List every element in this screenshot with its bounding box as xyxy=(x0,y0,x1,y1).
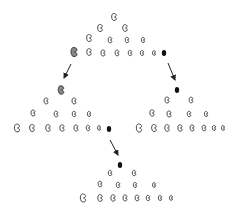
bean-left xyxy=(54,111,58,117)
bean-bottom xyxy=(80,194,85,202)
bean-left xyxy=(60,125,64,131)
bean-left xyxy=(87,112,90,117)
bean-bottom xyxy=(133,183,136,188)
bean-left xyxy=(46,125,50,132)
black-bean-left xyxy=(107,126,111,132)
bean-top xyxy=(152,51,155,56)
bean-left xyxy=(14,124,19,132)
bean-top xyxy=(115,50,119,56)
gray-bean-left xyxy=(58,86,64,94)
bean-left xyxy=(72,111,75,116)
black-bean-top xyxy=(162,50,166,56)
bean-left xyxy=(31,110,35,116)
bean-left xyxy=(72,98,76,104)
bean-right xyxy=(165,97,169,103)
bean-bottom xyxy=(123,195,127,201)
bean-pyramid-diagram xyxy=(0,0,237,211)
bean-right xyxy=(136,124,141,132)
bean-top xyxy=(140,51,143,56)
bean-top xyxy=(108,37,112,43)
bean-right xyxy=(167,111,171,117)
arrow-top-to-left-icon xyxy=(64,64,71,78)
bean-left xyxy=(97,126,100,131)
bean-left xyxy=(30,125,35,132)
bean-right xyxy=(165,125,169,132)
bean-right xyxy=(189,97,193,103)
bean-right xyxy=(212,126,215,131)
bean-bottom xyxy=(158,196,161,201)
bean-right xyxy=(204,112,207,117)
bean-right xyxy=(152,125,157,132)
bean-right xyxy=(178,125,182,131)
bean-bottom xyxy=(132,170,135,175)
bean-bottom xyxy=(152,183,155,188)
bean-left xyxy=(74,125,78,131)
bean-right xyxy=(190,125,194,131)
bean-right xyxy=(187,111,190,116)
bean-bottom xyxy=(108,170,111,175)
bean-right xyxy=(202,125,206,131)
bean-bottom xyxy=(116,182,119,187)
bean-left xyxy=(44,98,48,104)
bean-bottom xyxy=(98,181,102,187)
bean-right xyxy=(221,126,224,131)
bean-top xyxy=(141,38,144,43)
bean-top xyxy=(98,25,103,32)
bean-top xyxy=(87,49,91,56)
bean-top xyxy=(101,50,105,56)
bean-top xyxy=(128,50,131,55)
gray-bean-top xyxy=(71,47,77,56)
bean-top xyxy=(125,37,128,42)
bean-top xyxy=(112,14,117,21)
bean-left xyxy=(86,125,89,130)
bean-bottom xyxy=(135,195,139,201)
bean-right xyxy=(150,110,154,116)
bean-bottom xyxy=(146,195,149,200)
bean-bottom xyxy=(98,195,102,202)
bean-top xyxy=(87,35,92,42)
bean-bottom xyxy=(169,196,172,201)
bean-top xyxy=(123,25,127,32)
black-bean-bottom xyxy=(118,162,122,168)
arrow-left-to-bottom-icon xyxy=(110,140,118,155)
arrow-top-to-right-icon xyxy=(168,63,175,80)
diagram-layer xyxy=(14,14,224,203)
black-bean-right xyxy=(175,87,179,93)
bean-bottom xyxy=(111,195,115,201)
